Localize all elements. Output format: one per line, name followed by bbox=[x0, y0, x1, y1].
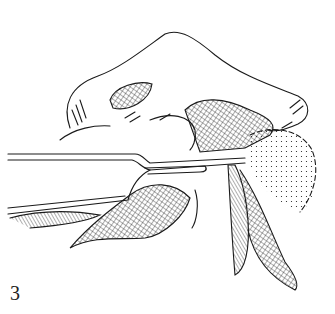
nostril bbox=[110, 83, 152, 109]
figure-number-label: 3 bbox=[10, 283, 20, 303]
illustration-figure: 3 bbox=[0, 0, 335, 314]
nose-surgery-drawing bbox=[0, 0, 335, 314]
